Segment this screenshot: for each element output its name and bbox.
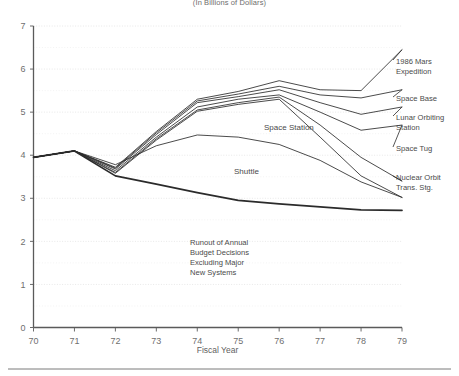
gridlines-major: [34, 26, 403, 328]
y-axis-tick-label: 2: [20, 237, 25, 247]
y-axis-tick-label: 4: [20, 150, 25, 160]
line-chart-svg: 01234567 70717273747576777879 Fiscal Yea…: [0, 0, 459, 376]
series-label-space-station: Space Station: [264, 123, 314, 132]
series-line-lunar-orbiting-station: [34, 90, 403, 169]
x-axis-tick-label: 79: [397, 336, 407, 346]
series-label-mars-line1: 1986 Mars: [396, 57, 432, 66]
annotation-line-4: New Systems: [190, 268, 237, 277]
annotation-line-1: Runout of Annual: [190, 238, 249, 247]
series-line-space-station: [34, 99, 403, 197]
series-label-space-tug: Space Tug: [396, 144, 432, 153]
y-axis-tick-label: 3: [20, 193, 25, 203]
annotation-line-3: Excluding Major: [190, 258, 244, 267]
x-axis-ticks: 70717273747576777879: [28, 328, 407, 346]
y-axis-ticks: 01234567: [20, 21, 33, 333]
annotation-line-2: Budget Decisions: [190, 248, 249, 257]
x-axis-tick-label: 75: [233, 336, 243, 346]
y-axis-tick-label: 5: [20, 107, 25, 117]
x-axis-tick-label: 73: [151, 336, 161, 346]
series-label-lunar-line1: Lunar Orbiting: [396, 113, 444, 122]
y-axis-tick-label: 6: [20, 64, 25, 74]
series-label-mars-line2: Expedition: [396, 67, 431, 76]
series-label-shuttle: Shuttle: [234, 167, 259, 176]
y-axis-tick-label: 7: [20, 21, 25, 31]
series-line-nuclear-orbit-trans-stg: [34, 97, 403, 181]
series-label-lunar-line2: Station: [396, 123, 420, 132]
series-line-1986-mars-expedition: [34, 50, 403, 168]
y-axis-tick-label: 0: [20, 323, 25, 333]
series-label-nuclear-line1: Nuclear Orbit: [396, 173, 442, 182]
x-axis-tick-label: 71: [69, 336, 79, 346]
x-axis-tick-label: 78: [356, 336, 366, 346]
x-axis-tick-label: 77: [315, 336, 325, 346]
series-label-nuclear-line2: Trans. Stg.: [396, 183, 433, 192]
y-axis-tick-label: 1: [20, 280, 25, 290]
series-line-shuttle: [34, 135, 403, 197]
x-axis-tick-label: 70: [28, 336, 38, 346]
x-axis-tick-label: 76: [274, 336, 284, 346]
x-axis-title: Fiscal Year: [197, 345, 239, 355]
series-line-runout-of-annual-budget-decisions-excluding-major-new-systems: [34, 151, 403, 210]
series-label-space-base: Space Base: [396, 94, 437, 103]
x-axis-tick-label: 74: [192, 336, 202, 346]
series-paths: [34, 50, 403, 211]
chart-root: (In Billions of Dollars) 01234567 707172…: [0, 0, 459, 376]
x-axis-tick-label: 72: [110, 336, 120, 346]
